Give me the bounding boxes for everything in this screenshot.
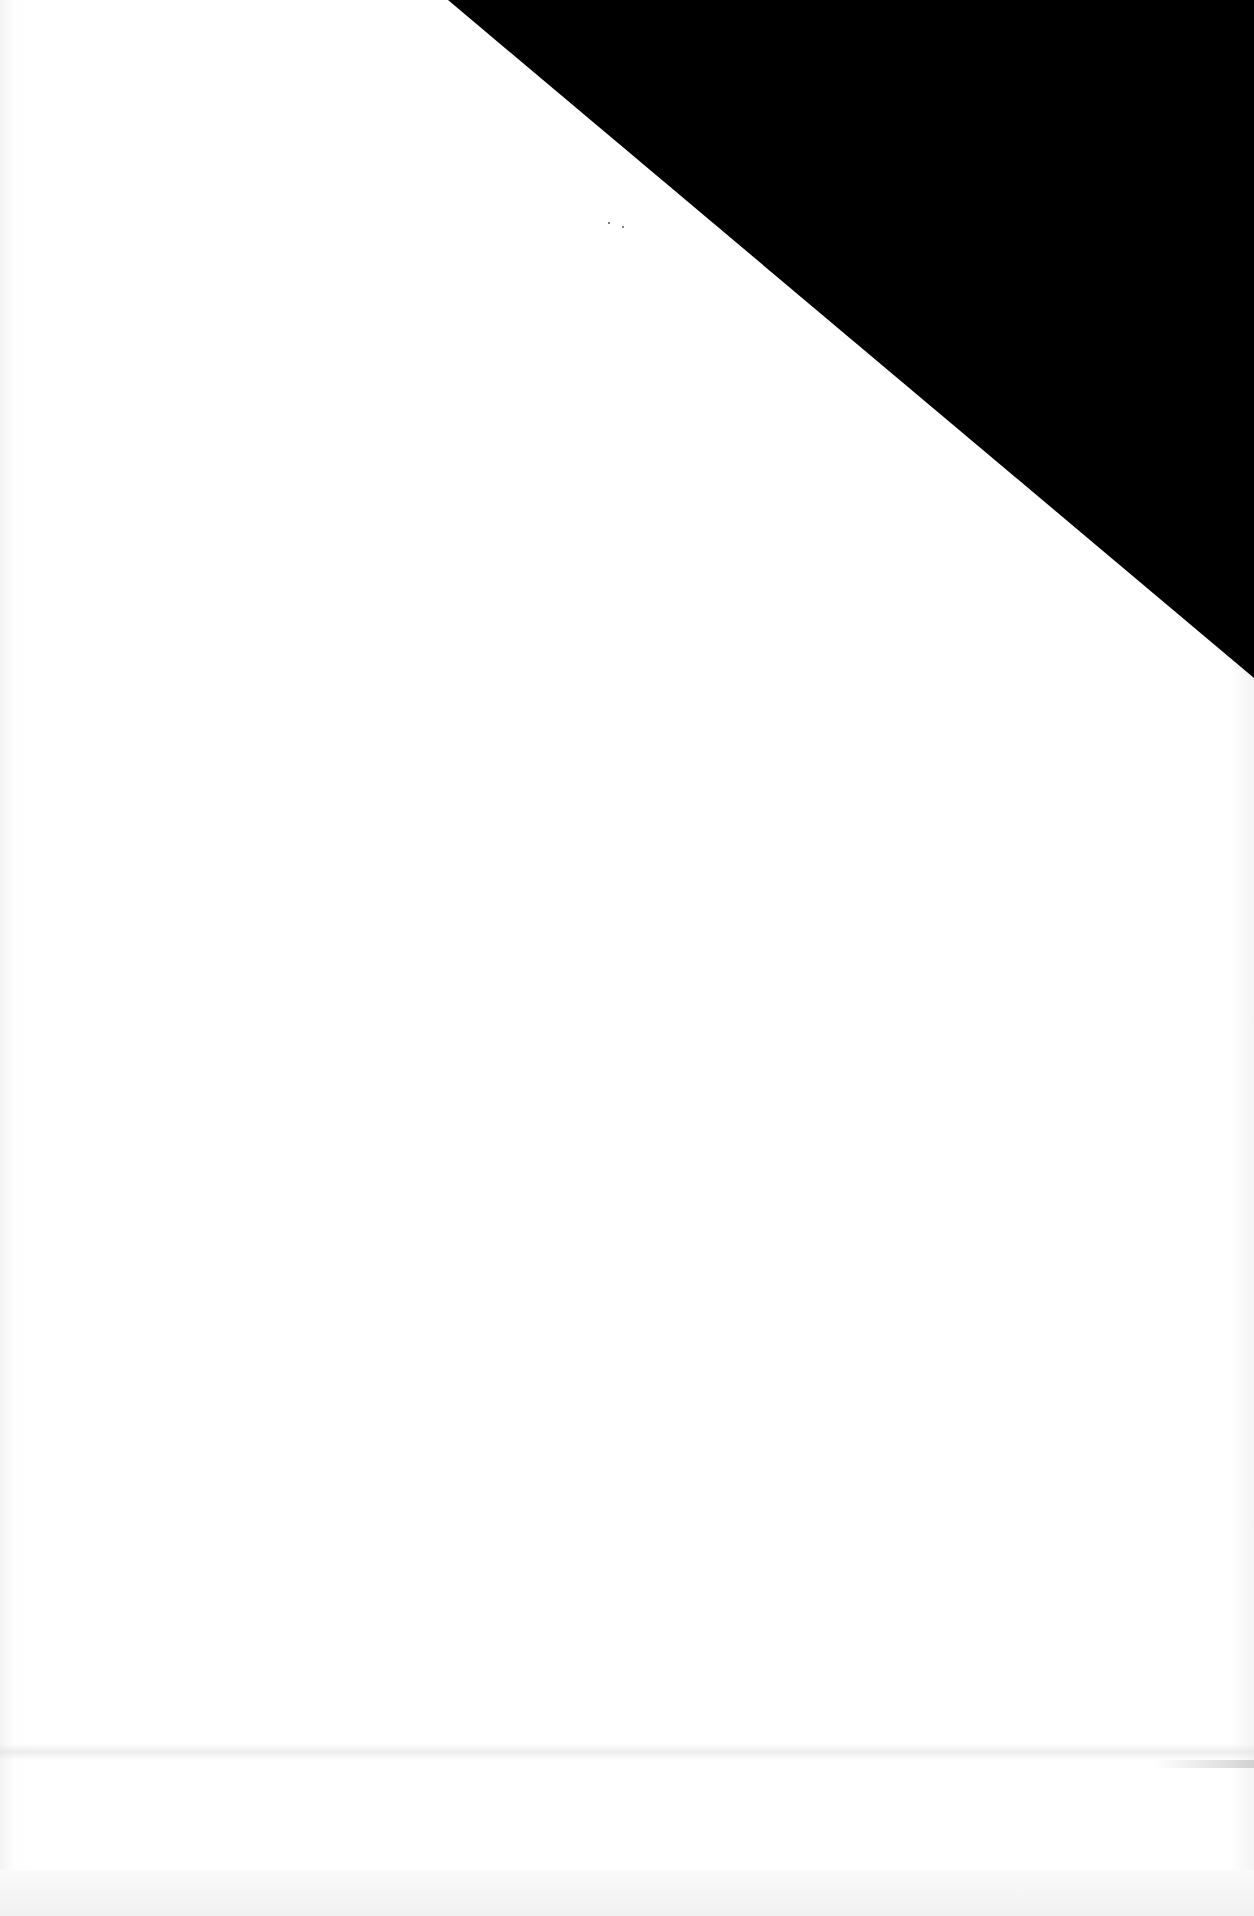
scan-bleed-line bbox=[0, 1744, 1254, 1760]
scan-bleed-edge bbox=[1154, 1760, 1254, 1768]
scan-bottom-edge bbox=[0, 1870, 1254, 1916]
blank-page bbox=[0, 0, 1254, 1916]
folded-corner-shape bbox=[0, 0, 1254, 1916]
